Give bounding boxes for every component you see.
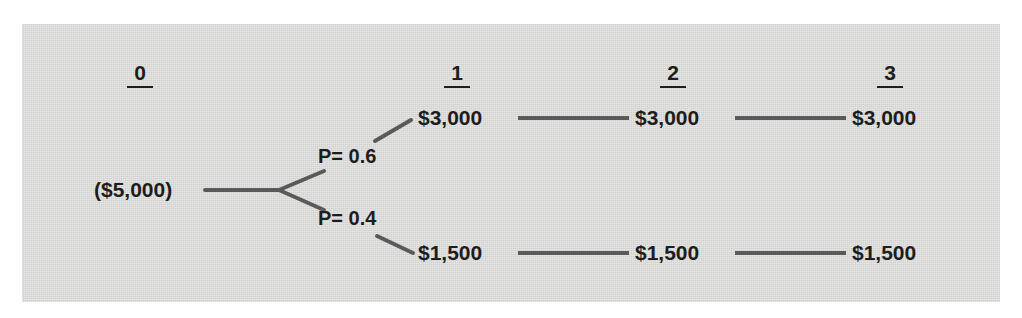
probability-label-lower: P= 0.4 xyxy=(318,207,376,229)
probability-label-upper: P= 0.6 xyxy=(318,145,376,167)
node-upper-period-1: $3,000 xyxy=(418,106,482,130)
period-header-0: 0 xyxy=(127,62,153,88)
node-lower-period-2: $1,500 xyxy=(635,241,699,265)
period-header-3: 3 xyxy=(877,62,903,88)
node-upper-period-3: $3,000 xyxy=(852,106,916,130)
period-header-2: 2 xyxy=(660,62,686,88)
diagram-canvas: 0 1 2 3 ($5,000) P= 0.6 P= 0.4 $3,000 $3… xyxy=(0,0,1022,318)
node-upper-period-2: $3,000 xyxy=(635,106,699,130)
node-initial-investment: ($5,000) xyxy=(94,178,172,202)
node-lower-period-3: $1,500 xyxy=(852,241,916,265)
period-header-1: 1 xyxy=(444,62,470,88)
node-lower-period-1: $1,500 xyxy=(418,241,482,265)
